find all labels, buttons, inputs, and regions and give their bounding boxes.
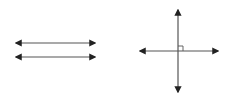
diagram-canvas	[0, 0, 231, 100]
perpendicular-lines-group	[140, 10, 218, 92]
right-angle-marker-icon	[178, 46, 183, 51]
parallel-lines-group	[16, 43, 95, 57]
